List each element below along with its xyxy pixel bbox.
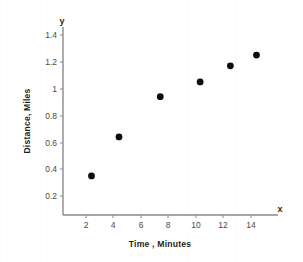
- scatter-plot-screenshot: 1.4 1.2 1 0.8 0.6 0.4 0.2 2 4 6 8 10: [0, 0, 303, 262]
- y-tick-label: 0.6: [45, 138, 57, 148]
- y-tick-label: 1.2: [45, 57, 57, 67]
- x-axis-title: Time , Minutes: [129, 239, 191, 249]
- x-tick-label: 12: [218, 220, 228, 230]
- data-point: [88, 172, 95, 179]
- x-tick-label: 8: [166, 220, 171, 230]
- y-tick-label: 1.4: [45, 30, 57, 40]
- data-point: [253, 52, 260, 59]
- x-tick-label: 10: [191, 220, 201, 230]
- x-tick-label: 14: [246, 220, 256, 230]
- y-tick-label: 0.8: [45, 111, 57, 121]
- x-axis-letter: x: [277, 204, 282, 214]
- y-tick-label: 0.4: [45, 164, 57, 174]
- x-tick-label: 2: [84, 220, 89, 230]
- y-tick-label: 0.2: [45, 191, 57, 201]
- y-axis-letter: y: [59, 16, 64, 26]
- y-tick-label: 1: [52, 84, 57, 94]
- y-axis-title: Distance, Miles: [22, 88, 32, 153]
- data-point: [227, 62, 234, 69]
- data-point-series: [88, 52, 260, 180]
- x-tick-label: 4: [111, 220, 116, 230]
- data-point: [197, 79, 204, 86]
- scatter-chart: 1.4 1.2 1 0.8 0.6 0.4 0.2 2 4 6 8 10: [0, 0, 303, 262]
- data-point: [116, 134, 123, 141]
- x-tick-label: 6: [139, 220, 144, 230]
- data-point: [157, 93, 164, 100]
- chart-canvas: 1.4 1.2 1 0.8 0.6 0.4 0.2 2 4 6 8 10: [0, 0, 303, 262]
